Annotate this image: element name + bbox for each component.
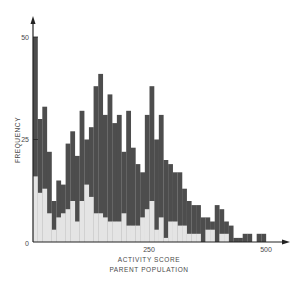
- histogram-bar-subset: [108, 222, 113, 243]
- histogram-bar-subset: [103, 217, 108, 242]
- histogram-bar-total: [163, 160, 168, 242]
- x-axis-label: ACTIVITY SCORE: [118, 256, 181, 263]
- histogram-bar-total: [215, 205, 220, 242]
- histogram-bar-total: [238, 238, 243, 242]
- histogram-bar-total: [108, 94, 113, 242]
- x-axis-subtitle: PARENT POPULATION: [109, 266, 188, 273]
- y-axis-arrow-icon: [31, 16, 36, 24]
- y-tick-label-50: 50: [21, 34, 29, 41]
- y-axis-label: FREQUENCY: [14, 117, 22, 163]
- histogram-bar-subset: [42, 189, 47, 242]
- histogram-bar-subset: [159, 217, 164, 242]
- histogram-bar-subset: [112, 222, 117, 243]
- histogram-bar-total: [229, 226, 234, 242]
- histogram-bar-subset: [205, 230, 210, 242]
- histogram-bar-subset: [89, 197, 94, 242]
- histogram-bar-subset: [187, 234, 192, 242]
- histogram-bar-subset: [38, 193, 43, 242]
- histogram-chart: 50 25 0 250 500 ACTIVITY SCORE PARENT PO…: [0, 0, 302, 281]
- histogram-bar-subset: [47, 213, 52, 242]
- histogram-bar-subset: [145, 209, 150, 242]
- histogram-bar-subset: [168, 222, 173, 243]
- histogram-bar-subset: [66, 209, 71, 242]
- y-tick-label-25: 25: [21, 136, 29, 143]
- histogram-bar-total: [201, 217, 206, 242]
- x-tick-label-250: 250: [143, 246, 155, 253]
- histogram-bar-subset: [173, 222, 178, 243]
- histogram-bar-subset: [163, 238, 168, 242]
- histogram-bar-subset: [140, 217, 145, 242]
- histogram-bar-subset: [136, 226, 141, 242]
- histogram-bar-subset: [52, 230, 57, 242]
- histogram-bar-subset: [210, 230, 215, 242]
- x-tick-label-500: 500: [260, 246, 272, 253]
- histogram-bar-subset: [33, 176, 38, 242]
- histogram-bar-total: [247, 234, 252, 242]
- histogram-bar-subset: [122, 213, 127, 242]
- x-axis-arrow-icon: [282, 240, 290, 245]
- histogram-bar-total: [233, 238, 238, 242]
- histogram-bar-subset: [177, 226, 182, 242]
- histogram-bar-subset: [224, 234, 229, 242]
- histogram-bar-total: [261, 234, 266, 242]
- histogram-bar-subset: [154, 230, 159, 242]
- histogram-bar-subset: [84, 185, 89, 242]
- histogram-bar-subset: [182, 226, 187, 242]
- histogram-bar-subset: [98, 213, 103, 242]
- histogram-bar-subset: [117, 222, 122, 243]
- histogram-bar-total: [257, 234, 262, 242]
- histogram-bar-subset: [219, 234, 224, 242]
- histogram-bar-subset: [191, 234, 196, 242]
- histogram-bar-subset: [80, 201, 85, 242]
- histogram-bar-subset: [196, 234, 201, 242]
- histogram-bar-total: [154, 140, 159, 243]
- histogram-bar-total: [243, 234, 248, 242]
- histogram-bar-subset: [70, 201, 75, 242]
- histogram-bar-subset: [75, 222, 80, 243]
- histogram-bar-subset: [61, 213, 66, 242]
- y-tick-label-0: 0: [25, 240, 29, 247]
- histogram-bar-subset: [56, 217, 61, 242]
- histogram-bar-total: [126, 111, 131, 242]
- histogram-bar-subset: [131, 226, 136, 242]
- histogram-bar-subset: [150, 201, 155, 242]
- histogram-bar-subset: [94, 213, 99, 242]
- histogram-bar-subset: [126, 226, 131, 242]
